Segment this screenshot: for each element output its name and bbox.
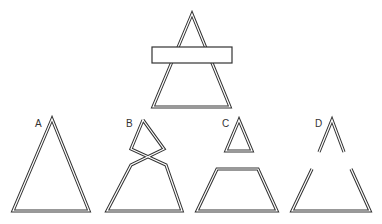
option-a-label: A <box>35 119 42 129</box>
option-b-label: B <box>126 119 133 129</box>
option-a-figure <box>13 119 89 211</box>
option-c-figure <box>197 120 277 211</box>
occluder-rectangle <box>152 47 232 63</box>
option-c-label: C <box>222 119 229 129</box>
diagram-canvas <box>0 0 382 224</box>
top-occluded-triangle <box>152 14 232 107</box>
option-b-figure <box>107 120 182 211</box>
option-d-label: D <box>315 119 322 129</box>
option-d-figure <box>292 120 370 211</box>
